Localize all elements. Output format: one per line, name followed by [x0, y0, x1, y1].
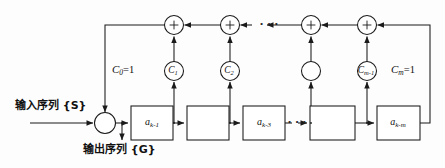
delay-box-3-label: ak-3 [257, 117, 271, 129]
output-sequence-label: 输出序列 {G} [83, 144, 156, 155]
bottom-ellipsis: • • • [288, 118, 307, 127]
tap-cm-text-label: Cm=1 [391, 64, 415, 76]
block-diagram: + + + + + C1 C2 Cm-1 C0=1 Cm=1 ak-1 ak-3… [0, 0, 445, 168]
delay-box-4-rect [310, 106, 355, 140]
tap-c0-text-label: C0=1 [112, 64, 134, 76]
delay-box-2-rect [187, 106, 229, 140]
tap-c2-label: C2 [224, 66, 234, 76]
tap-c1-label: C1 [168, 66, 178, 76]
tap-cm1-label: Cm-1 [358, 66, 374, 76]
top-ellipsis: • • • [260, 20, 279, 29]
input-sequence-label: 输入序列 {S} [15, 100, 86, 111]
tap-cx-circle [302, 62, 321, 81]
delay-box-5-label: ak-m [390, 117, 406, 129]
diagram-canvas [0, 0, 445, 168]
delay-box-1-label: ak-1 [145, 117, 159, 129]
